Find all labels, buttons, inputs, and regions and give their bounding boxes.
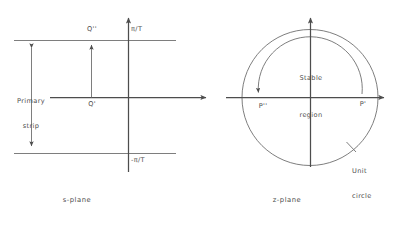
figure-canvas: Primary strip π/T -π/T Q'' Q' s-plane St…	[0, 0, 397, 229]
z-plane-unit-circle-label-line1: Unit	[352, 167, 386, 175]
s-plane-caption: s-plane	[48, 196, 106, 204]
z-plane-unit-circle-label: Unit circle	[352, 150, 386, 217]
z-plane-point-p-double-prime-label: P''	[250, 102, 276, 110]
s-plane-point-q-double-prime-label: Q''	[77, 25, 107, 33]
z-plane-stable-label: Stable	[290, 74, 332, 82]
figure-vector-layer	[0, 0, 397, 229]
z-plane-point-p-prime-label: P'	[352, 100, 374, 108]
z-plane-region-label: region	[289, 111, 333, 119]
s-plane-primary-strip-label: Primary strip	[6, 80, 56, 147]
s-plane-lower-boundary-label: -π/T	[131, 156, 169, 164]
z-plane-diagram	[226, 18, 384, 167]
z-plane-unit-circle-label-line2: circle	[352, 192, 386, 200]
s-plane-upper-boundary-label: π/T	[131, 25, 165, 33]
s-plane-point-q-prime-label: Q'	[77, 100, 107, 108]
z-plane-caption: z-plane	[258, 196, 316, 204]
s-plane-primary-strip-label-line2: strip	[6, 122, 56, 130]
s-plane-primary-strip-label-line1: Primary	[6, 97, 56, 105]
